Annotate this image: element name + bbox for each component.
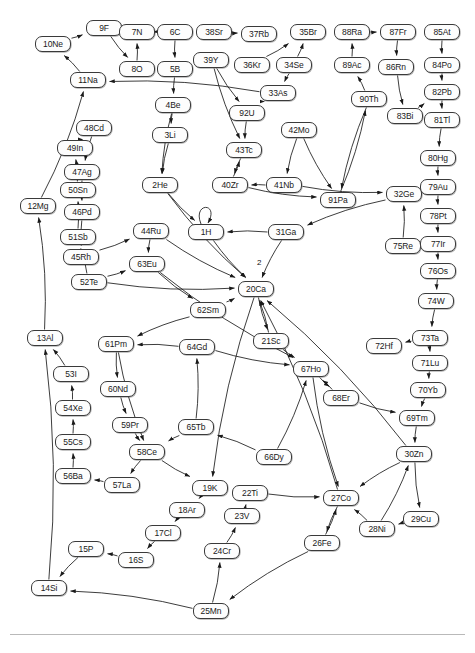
graph-node-label: 41Nb: [274, 181, 294, 190]
graph-node-34se[interactable]: 34Se: [276, 57, 312, 73]
graph-node-63eu[interactable]: 63Eu: [129, 256, 165, 272]
graph-node-91pa[interactable]: 91Pa: [320, 192, 356, 208]
graph-node-71lu[interactable]: 71Lu: [412, 355, 448, 371]
graph-node-56ba[interactable]: 56Ba: [55, 468, 91, 484]
graph-node-16s[interactable]: 16S: [118, 552, 154, 568]
graph-node-76os[interactable]: 76Os: [420, 263, 456, 279]
graph-node-65tb[interactable]: 65Tb: [178, 419, 214, 435]
graph-node-22ti[interactable]: 22Ti: [232, 485, 268, 501]
graph-node-87fr[interactable]: 87Fr: [380, 24, 416, 40]
graph-node-68er[interactable]: 68Er: [323, 390, 359, 406]
graph-node-60nd[interactable]: 60Nd: [100, 381, 136, 397]
graph-node-18ar[interactable]: 18Ar: [169, 502, 205, 518]
graph-node-label: 37Rb: [249, 30, 269, 39]
graph-node-31ga[interactable]: 31Ga: [268, 224, 304, 240]
graph-node-52te[interactable]: 52Te: [71, 274, 107, 290]
graph-node-89ac[interactable]: 89Ac: [334, 57, 370, 73]
graph-node-64gd[interactable]: 64Gd: [179, 339, 215, 355]
graph-node-90th[interactable]: 90Th: [351, 91, 387, 107]
graph-node-61pm[interactable]: 61Pm: [98, 336, 134, 352]
graph-node-66dy[interactable]: 66Dy: [256, 449, 292, 465]
graph-node-43tc[interactable]: 43Tc: [226, 142, 262, 158]
graph-node-9f[interactable]: 9F: [86, 20, 122, 36]
graph-node-37rb[interactable]: 37Rb: [241, 26, 277, 42]
graph-node-8o[interactable]: 8O: [119, 61, 155, 77]
graph-node-3li[interactable]: 3Li: [152, 127, 188, 143]
graph-node-62sm[interactable]: 62Sm: [190, 302, 226, 318]
graph-node-1h[interactable]: 1H: [188, 224, 224, 240]
graph-node-70yb[interactable]: 70Yb: [410, 382, 446, 398]
graph-node-67ho[interactable]: 67Ho: [293, 361, 329, 377]
graph-node-84po[interactable]: 84Po: [424, 57, 460, 73]
graph-node-33as[interactable]: 33As: [260, 85, 296, 101]
graph-node-41nb[interactable]: 41Nb: [266, 177, 302, 193]
graph-node-49in[interactable]: 49In: [57, 140, 93, 156]
graph-node-28ni[interactable]: 28Ni: [359, 521, 395, 537]
graph-node-label: 40Zr: [221, 181, 238, 190]
graph-node-50sn[interactable]: 50Sn: [60, 182, 96, 198]
graph-node-88ra[interactable]: 88Ra: [334, 24, 370, 40]
graph-node-27co[interactable]: 27Co: [323, 490, 359, 506]
graph-node-5b[interactable]: 5B: [157, 61, 193, 77]
graph-node-83bi[interactable]: 83Bi: [387, 108, 423, 124]
graph-node-40zr[interactable]: 40Zr: [212, 177, 248, 193]
graph-node-39y[interactable]: 39Y: [193, 52, 229, 68]
graph-node-77ir[interactable]: 77Ir: [420, 236, 456, 252]
graph-node-20ca[interactable]: 20Ca: [238, 281, 274, 297]
graph-node-24cr[interactable]: 24Cr: [204, 543, 240, 559]
graph-node-25mn[interactable]: 25Mn: [193, 603, 229, 619]
graph-node-29cu[interactable]: 29Cu: [403, 511, 439, 527]
graph-node-42mo[interactable]: 42Mo: [281, 122, 317, 138]
graph-node-36kr[interactable]: 36Kr: [234, 57, 270, 73]
graph-node-78pt[interactable]: 78Pt: [420, 208, 456, 224]
graph-node-21sc[interactable]: 21Sc: [253, 333, 289, 349]
graph-node-label: 89Ac: [343, 61, 362, 70]
graph-node-74w[interactable]: 74W: [418, 293, 454, 309]
graph-node-12mg[interactable]: 12Mg: [20, 198, 56, 214]
graph-node-11na[interactable]: 11Na: [70, 72, 106, 88]
graph-node-30zn[interactable]: 30Zn: [396, 446, 432, 462]
graph-node-label: 30Zn: [405, 450, 424, 459]
graph-node-32ge[interactable]: 32Ge: [386, 186, 422, 202]
graph-node-57la[interactable]: 57La: [104, 477, 140, 493]
graph-node-81tl[interactable]: 81Tl: [424, 112, 460, 128]
graph-node-59pr[interactable]: 59Pr: [112, 417, 148, 433]
graph-node-55cs[interactable]: 55Cs: [55, 434, 91, 450]
graph-node-label: 70Yb: [418, 386, 437, 395]
graph-node-80hg[interactable]: 80Hg: [420, 150, 456, 166]
graph-node-6c[interactable]: 6C: [157, 24, 193, 40]
graph-node-79au[interactable]: 79Au: [420, 179, 456, 195]
graph-node-44ru[interactable]: 44Ru: [133, 223, 169, 239]
graph-node-2he[interactable]: 2He: [142, 177, 178, 193]
graph-node-58ce[interactable]: 58Ce: [129, 444, 165, 460]
graph-node-7n[interactable]: 7N: [119, 24, 155, 40]
graph-node-label: 42Mo: [289, 126, 310, 135]
graph-node-48cd[interactable]: 48Cd: [76, 120, 112, 136]
graph-node-23v[interactable]: 23V: [224, 508, 260, 524]
graph-node-72hf[interactable]: 72Hf: [366, 338, 402, 354]
graph-node-53i[interactable]: 53I: [53, 366, 89, 382]
graph-node-10ne[interactable]: 10Ne: [35, 36, 71, 52]
graph-node-54xe[interactable]: 54Xe: [55, 400, 91, 416]
graph-node-75re[interactable]: 75Re: [385, 238, 421, 254]
graph-node-82pb[interactable]: 82Pb: [424, 84, 460, 100]
graph-node-73ta[interactable]: 73Ta: [412, 330, 448, 346]
graph-node-69tm[interactable]: 69Tm: [399, 410, 435, 426]
graph-node-45rh[interactable]: 45Rh: [63, 249, 99, 265]
graph-node-38sr[interactable]: 38Sr: [196, 24, 232, 40]
graph-node-92u[interactable]: 92U: [229, 105, 265, 121]
graph-node-15p[interactable]: 15P: [68, 541, 104, 557]
graph-node-26fe[interactable]: 26Fe: [304, 535, 340, 551]
graph-node-13al[interactable]: 13Al: [27, 330, 63, 346]
graph-node-19k[interactable]: 19K: [192, 480, 228, 496]
graph-node-51sb[interactable]: 51Sb: [60, 229, 96, 245]
graph-node-86rn[interactable]: 86Rn: [378, 59, 414, 75]
graph-node-4be[interactable]: 4Be: [155, 97, 191, 113]
graph-node-35br[interactable]: 35Br: [290, 24, 326, 40]
graph-node-17cl[interactable]: 17Cl: [145, 525, 181, 541]
graph-node-85at[interactable]: 85At: [424, 24, 460, 40]
graph-node-14si[interactable]: 14Si: [31, 580, 67, 596]
graph-node-47ag[interactable]: 47Ag: [64, 164, 100, 180]
graph-node-46pd[interactable]: 46Pd: [64, 204, 100, 220]
graph-edge-16s-to-15p: [108, 554, 118, 556]
